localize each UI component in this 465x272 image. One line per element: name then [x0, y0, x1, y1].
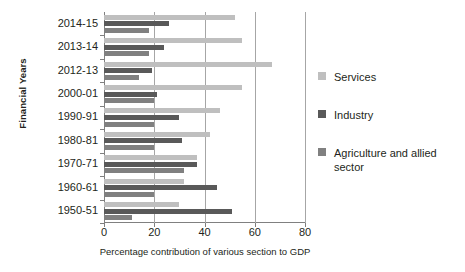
- x-tick-label-80: 80: [299, 226, 311, 238]
- bar-industry: [104, 115, 179, 120]
- bar-group: 2000-01: [104, 85, 305, 103]
- y-tick: [100, 176, 104, 177]
- y-tick: [100, 200, 104, 201]
- bar-services: [104, 38, 242, 43]
- bar-agriculture: [104, 192, 154, 197]
- y-axis-category-label: 1950-51: [2, 205, 98, 216]
- y-axis-category-label: 1990-91: [2, 111, 98, 122]
- y-axis-category-label: 2013-14: [2, 41, 98, 52]
- bar-agriculture: [104, 75, 139, 80]
- bar-group: 1960-61: [104, 179, 305, 197]
- bar-agriculture: [104, 168, 184, 173]
- bar-group: 1980-81: [104, 132, 305, 150]
- y-axis-category-label: 1970-71: [2, 158, 98, 169]
- legend-swatch-agriculture-icon: [318, 148, 326, 156]
- x-tick-label-20: 20: [148, 226, 160, 238]
- y-tick: [100, 35, 104, 36]
- y-tick: [100, 106, 104, 107]
- bar-industry: [104, 162, 197, 167]
- bar-services: [104, 179, 184, 184]
- y-tick: [100, 82, 104, 83]
- legend-item-services: Services: [318, 70, 376, 84]
- x-axis-title: Percentage contribution of various secti…: [60, 246, 350, 257]
- bar-group: 1950-51: [104, 202, 305, 220]
- bar-group: 1990-91: [104, 108, 305, 126]
- bar-industry: [104, 138, 182, 143]
- bar-agriculture: [104, 28, 149, 33]
- bar-group: 2014-15: [104, 15, 305, 33]
- bar-agriculture: [104, 51, 149, 56]
- bar-services: [104, 132, 210, 137]
- bar-services: [104, 108, 220, 113]
- y-axis-category-label: 2012-13: [2, 65, 98, 76]
- legend-label-agriculture: Agriculture and allied sector: [334, 146, 458, 174]
- legend-swatch-industry-icon: [318, 110, 326, 118]
- x-tick-label-60: 60: [249, 226, 261, 238]
- bar-industry: [104, 185, 217, 190]
- x-axis-tick-labels: 020406080: [104, 226, 305, 242]
- y-axis-category-label: 2000-01: [2, 88, 98, 99]
- y-tick: [100, 59, 104, 60]
- bar-group: 2013-14: [104, 38, 305, 56]
- plot-area: 2014-152013-142012-132000-011990-911980-…: [104, 12, 305, 223]
- x-tick-label-40: 40: [198, 226, 210, 238]
- gridline-80: [305, 12, 306, 223]
- y-tick: [100, 153, 104, 154]
- bar-industry: [104, 21, 169, 26]
- bar-services: [104, 15, 235, 20]
- bar-agriculture: [104, 98, 154, 103]
- bar-agriculture: [104, 215, 132, 220]
- bar-services: [104, 62, 272, 67]
- y-tick: [100, 129, 104, 130]
- bar-industry: [104, 92, 157, 97]
- legend-item-industry: Industry: [318, 108, 373, 122]
- bar-industry: [104, 209, 232, 214]
- y-axis-category-label: 1960-61: [2, 182, 98, 193]
- legend-label-industry: Industry: [334, 108, 373, 122]
- legend-swatch-services-icon: [318, 72, 326, 80]
- bar-agriculture: [104, 122, 154, 127]
- gdp-contribution-bar-chart: Financial Years 2014-152013-142012-13200…: [0, 0, 465, 272]
- bar-industry: [104, 45, 164, 50]
- y-axis-category-label: 2014-15: [2, 18, 98, 29]
- legend-item-agriculture: Agriculture and allied sector: [318, 146, 458, 174]
- bar-group: 1970-71: [104, 155, 305, 173]
- legend-label-services: Services: [334, 70, 376, 84]
- bar-services: [104, 155, 197, 160]
- bar-services: [104, 202, 179, 207]
- x-tick-label-0: 0: [101, 226, 107, 238]
- bar-industry: [104, 68, 152, 73]
- y-axis-category-label: 1980-81: [2, 135, 98, 146]
- bar-group: 2012-13: [104, 62, 305, 80]
- bar-agriculture: [104, 145, 154, 150]
- bar-services: [104, 85, 242, 90]
